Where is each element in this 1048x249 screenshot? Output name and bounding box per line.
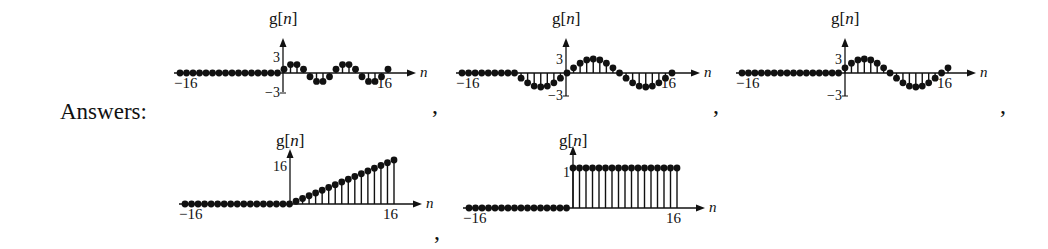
stem-marker [216, 70, 223, 77]
stem-marker [739, 70, 746, 77]
stem-marker [784, 70, 791, 77]
stem-marker [255, 70, 262, 77]
stem-marker [227, 201, 234, 208]
stem-marker [326, 73, 333, 80]
stem-marker [809, 70, 816, 77]
stem-marker [945, 64, 952, 71]
stem-marker [511, 205, 518, 212]
x-tick-label: 16 [937, 75, 953, 91]
stem-marker [320, 78, 327, 85]
stem-marker [655, 79, 662, 86]
stem-marker [479, 205, 486, 212]
stem-marker [835, 70, 842, 77]
x-tick-label: −16 [174, 75, 198, 91]
stem-marker [294, 61, 301, 68]
stem-marker [622, 165, 629, 172]
stem-marker [293, 198, 300, 205]
stem-marker [816, 70, 823, 77]
stem-marker [583, 57, 590, 64]
stem-marker [932, 75, 939, 82]
stem-marker [485, 70, 492, 77]
stem-marker [196, 70, 203, 77]
stem-marker [222, 70, 229, 77]
stem-marker [661, 165, 668, 172]
stem-marker [751, 70, 758, 77]
stem-marker [577, 60, 584, 67]
stem-marker [307, 73, 314, 80]
stem-marker [642, 84, 649, 91]
stem-marker [364, 168, 371, 175]
stem-marker [325, 184, 332, 191]
stem-marker [287, 61, 294, 68]
stem-marker [867, 57, 874, 64]
stem-marker [854, 57, 861, 64]
stem-marker [662, 75, 669, 82]
plot-title: g[n] [276, 131, 304, 150]
stem-marker [537, 84, 544, 91]
stem-marker [195, 201, 202, 208]
stem-marker [299, 195, 306, 202]
y-tick-label: 1 [563, 165, 570, 180]
stem-marker [861, 56, 868, 63]
stem-marker [333, 66, 340, 73]
stem-marker [648, 165, 655, 172]
stem-marker [466, 205, 473, 212]
stem-marker [391, 157, 398, 164]
x-axis-arrow-icon [696, 205, 705, 212]
stem-marker [472, 205, 479, 212]
stem-marker [177, 70, 184, 77]
stem-marker [887, 70, 894, 77]
stem-marker [248, 70, 255, 77]
x-axis-label: n [426, 195, 434, 211]
stem-marker [758, 70, 765, 77]
stem-marker [616, 70, 623, 77]
stem-marker [188, 201, 195, 208]
stem-marker [332, 181, 339, 188]
stem-marker [524, 79, 531, 86]
stem-marker [234, 201, 241, 208]
stem-marker [240, 201, 247, 208]
stem-marker [628, 165, 635, 172]
stem-marker [524, 205, 531, 212]
stem-marker [498, 205, 505, 212]
y-axis-arrow-icon [280, 38, 287, 47]
stem-marker [570, 64, 577, 71]
stem-marker [550, 79, 557, 86]
stem-marker [893, 75, 900, 82]
stem-marker [570, 165, 577, 172]
stem-marker [674, 165, 681, 172]
stem-marker [641, 165, 648, 172]
stem-marker [505, 205, 512, 212]
stem-marker [764, 70, 771, 77]
plot-title: g[n] [831, 9, 859, 28]
stem-marker [384, 159, 391, 166]
stem-marker [550, 205, 557, 212]
stem-marker [602, 165, 609, 172]
stem-marker [201, 201, 208, 208]
stem-marker [531, 205, 538, 212]
x-axis-label: n [420, 64, 428, 80]
stem-marker [576, 165, 583, 172]
stem-marker [609, 165, 616, 172]
stem-marker [260, 201, 267, 208]
stem-marker [313, 78, 320, 85]
stem-marker [267, 201, 274, 208]
stem-marker [492, 205, 499, 212]
y-tick-label: 3 [556, 52, 563, 67]
stem-marker [183, 70, 190, 77]
stem-marker [359, 73, 366, 80]
stem-marker [385, 66, 392, 73]
y-tick-label: −3 [265, 85, 280, 100]
y-axis-arrow-icon [842, 38, 849, 47]
stem-plot-shifted-sine-period-16: g[n]n−16163−3 [736, 9, 988, 103]
stem-marker [848, 60, 855, 67]
stem-marker [557, 75, 564, 82]
stem-marker [777, 70, 784, 77]
stem-marker [339, 61, 346, 68]
stem-marker [790, 70, 797, 77]
y-tick-label: −3 [548, 88, 563, 103]
stem-marker [906, 83, 913, 90]
stem-marker [182, 201, 189, 208]
x-axis-label: n [709, 199, 717, 215]
plot-title: g[n] [552, 9, 580, 28]
